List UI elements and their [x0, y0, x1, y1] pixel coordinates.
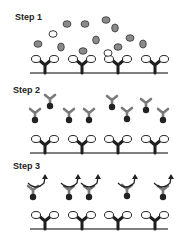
detection-antibody-icon [64, 186, 74, 200]
rotate-arrow-icon [118, 174, 138, 187]
rotate-arrow-icon [154, 174, 174, 187]
detection-antibody-icon [28, 186, 38, 200]
step-1-panel [30, 17, 169, 73]
detection-antibody-icon [45, 95, 55, 109]
detection-antibody-icon [84, 186, 94, 200]
capture-antibody-icon [69, 56, 96, 74]
capture-antibody-icon [142, 56, 169, 74]
detection-antibody-icon [158, 109, 168, 123]
rotate-arrow-icon [81, 174, 101, 187]
capture-antibody-icon [69, 212, 96, 230]
detection-antibody-icon [141, 99, 151, 113]
detection-antibody-icon [30, 109, 40, 123]
detection-antibody-icon [158, 186, 168, 200]
step-3-panel [28, 174, 174, 229]
elisa-diagram [0, 0, 189, 232]
rotate-arrow-icon [61, 174, 81, 187]
capture-antibody-icon [32, 136, 59, 154]
capture-antibody-icon [32, 56, 59, 74]
capture-antibody-icon [142, 212, 169, 230]
detection-antibody-icon [107, 96, 117, 110]
capture-antibody-icon [105, 56, 132, 74]
detection-antibody-icon [64, 109, 74, 123]
detection-antibody-icon [122, 108, 132, 122]
capture-antibody-icon [142, 136, 169, 154]
detection-antibody-icon [84, 109, 94, 123]
capture-antibody-icon [32, 212, 59, 230]
step-2-panel [30, 95, 169, 153]
capture-antibody-icon [105, 212, 132, 230]
capture-antibody-icon [105, 136, 132, 154]
capture-antibody-icon [69, 136, 96, 154]
